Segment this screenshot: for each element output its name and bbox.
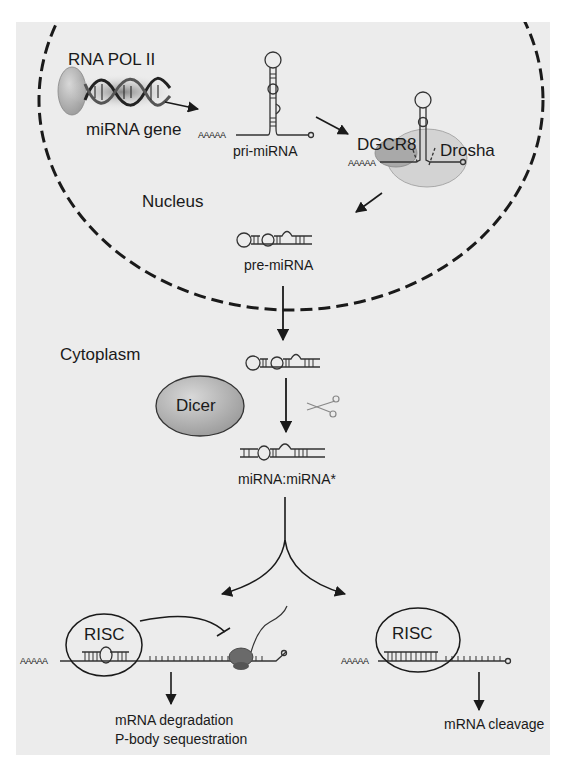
mirna-gene-label: miRNA gene bbox=[86, 120, 181, 140]
scissors-icon bbox=[307, 396, 339, 417]
mirna-duplex-label: miRNA:miRNA* bbox=[238, 471, 336, 487]
processing-arrow bbox=[316, 117, 348, 134]
mirna-biogenesis-diagram bbox=[0, 0, 562, 771]
transcription-arrow bbox=[165, 102, 198, 109]
pre-mirna-hairpin-icon bbox=[237, 232, 312, 248]
right-polya-label: AAAAA bbox=[341, 656, 369, 666]
dicer-label: Dicer bbox=[176, 396, 216, 416]
dgcr8-label: DGCR8 bbox=[357, 135, 417, 155]
drosha-polya-label: AAAAA bbox=[348, 158, 376, 168]
cytoplasm-label: Cytoplasm bbox=[60, 345, 140, 365]
mirna-duplex-icon bbox=[240, 444, 325, 460]
translation-inhibition bbox=[140, 616, 230, 636]
left-polya-label: AAAAA bbox=[20, 656, 48, 666]
p-body-outcome-label: P-body sequestration bbox=[115, 731, 247, 747]
right-risc-label: RISC bbox=[392, 624, 433, 644]
pri-mirna-hairpin-icon bbox=[236, 52, 314, 138]
pathway-split-arrows bbox=[222, 497, 345, 594]
drosha-label: Drosha bbox=[440, 141, 495, 161]
degradation-outcome-label: mRNA degradation bbox=[115, 712, 233, 728]
right-mrna-strand bbox=[378, 652, 511, 664]
ribosome-icon bbox=[229, 648, 253, 670]
rna-pol-ii-label: RNA POL II bbox=[68, 50, 155, 70]
dna-helix-icon bbox=[67, 74, 177, 110]
left-risc-label: RISC bbox=[84, 625, 125, 645]
pri-mirna-label: pri-miRNA bbox=[233, 143, 298, 159]
cyto-pre-mirna-icon bbox=[246, 355, 320, 371]
export-prep-arrow bbox=[356, 193, 382, 212]
nucleus-label: Nucleus bbox=[142, 192, 203, 212]
left-risc-complex bbox=[66, 614, 142, 676]
nascent-peptide bbox=[251, 606, 287, 652]
cleavage-outcome-label: mRNA cleavage bbox=[444, 716, 544, 732]
pre-mirna-label: pre-miRNA bbox=[244, 257, 313, 273]
pri-polya-label: AAAAA bbox=[198, 130, 226, 140]
